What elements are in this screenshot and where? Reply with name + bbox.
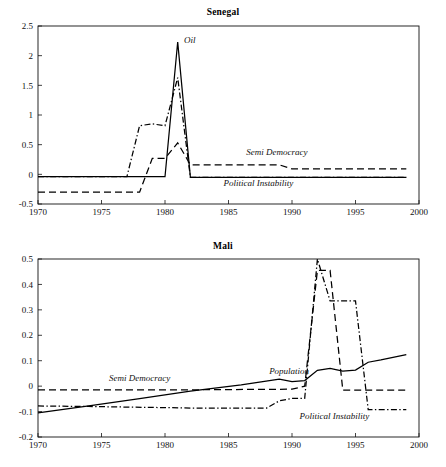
x-tick-label: 2000 <box>410 440 429 450</box>
figure-root: Senegal -0.500.511.522.51970197519801985… <box>0 0 446 467</box>
y-tick-label: 1.5 <box>22 81 34 91</box>
y-tick-label: 0.3 <box>22 305 34 315</box>
y-tick-label: 2.5 <box>22 21 34 31</box>
y-tick-label: 0.1 <box>22 356 33 366</box>
series-line-political-instability <box>38 78 406 178</box>
y-tick-label: 0.2 <box>22 330 33 340</box>
y-tick-label: 0.5 <box>22 254 34 264</box>
senegal-line-chart: -0.500.511.522.5197019751980198519901995… <box>0 0 446 234</box>
mali-line-chart: -0.2-0.100.10.20.30.40.51970197519801985… <box>0 233 446 467</box>
series-label-semi-democracy: Semi Democracy <box>246 147 307 157</box>
x-tick-label: 1985 <box>220 207 239 217</box>
y-tick-label: -0.1 <box>19 407 33 417</box>
series-line-semi-democracy <box>38 143 406 192</box>
x-tick-label: 1970 <box>29 440 48 450</box>
y-tick-label: 0 <box>29 381 34 391</box>
x-tick-label: 1980 <box>156 440 175 450</box>
series-label-semi-democracy: Semi Democracy <box>109 373 170 383</box>
series-label-political-instability: Political Instability <box>299 411 370 421</box>
series-label-oil: Oil <box>184 35 196 45</box>
chart-panel-senegal: Senegal -0.500.511.522.51970197519801985… <box>0 0 446 234</box>
series-line-semi-democracy <box>38 270 406 390</box>
y-tick-label: 0.4 <box>22 280 34 290</box>
series-label-political-instability: Political Instability <box>222 178 293 188</box>
y-tick-label: 1 <box>29 110 34 120</box>
x-tick-label: 1995 <box>347 440 366 450</box>
x-tick-label: 2000 <box>410 207 429 217</box>
x-tick-label: 1975 <box>93 440 112 450</box>
y-tick-label: 2 <box>29 51 34 61</box>
series-line-population <box>38 355 406 413</box>
x-tick-label: 1975 <box>93 207 112 217</box>
series-label-population: Population <box>268 366 309 376</box>
y-tick-label: 0.5 <box>22 140 34 150</box>
x-tick-label: 1995 <box>347 207 366 217</box>
chart-panel-mali: Mali -0.2-0.100.10.20.30.40.519701975198… <box>0 233 446 467</box>
x-tick-label: 1970 <box>29 207 48 217</box>
x-tick-label: 1990 <box>283 207 302 217</box>
x-tick-label: 1980 <box>156 207 175 217</box>
x-tick-label: 1985 <box>220 440 239 450</box>
x-tick-label: 1990 <box>283 440 302 450</box>
series-line-oil <box>38 42 406 177</box>
y-tick-label: 0 <box>29 170 34 180</box>
